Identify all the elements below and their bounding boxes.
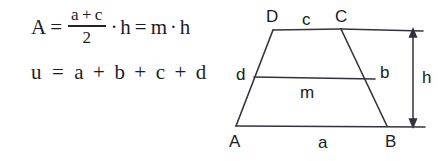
perimeter-term-a: a bbox=[74, 60, 84, 84]
perimeter-term-b: b bbox=[114, 60, 125, 84]
height-label-h: h bbox=[422, 69, 431, 86]
vertex-label-b: B bbox=[385, 133, 396, 150]
area-symbol: A bbox=[31, 17, 46, 38]
perimeter-equals-sign: = bbox=[48, 60, 68, 84]
midline-segment bbox=[254, 77, 375, 79]
perimeter-symbol: u bbox=[31, 60, 42, 84]
height-symbol-1: h bbox=[120, 17, 131, 38]
numerator-plus: + bbox=[79, 5, 95, 24]
perimeter-plus-1: + bbox=[90, 60, 108, 84]
perimeter-term-c: c bbox=[156, 60, 166, 84]
figure-canvas: A = a+c 2 · h = m · h u = a + b + c + bbox=[0, 0, 439, 161]
side-top-base-dc bbox=[273, 29, 341, 30]
multiplication-dot-1: · bbox=[108, 17, 121, 37]
equals-sign-1: = bbox=[46, 17, 66, 38]
perimeter-plus-3: + bbox=[171, 60, 189, 84]
midline-label-m: m bbox=[300, 84, 314, 101]
height-arrow-head-bottom bbox=[410, 119, 417, 127]
vertex-label-a: A bbox=[229, 133, 240, 150]
trapezoid-diagram: D c C d b m A a B h bbox=[215, 0, 439, 161]
height-symbol-2: h bbox=[180, 17, 191, 38]
height-dimension-arrow bbox=[410, 29, 417, 127]
side-bottom-base-ab bbox=[236, 126, 425, 127]
vertex-label-d: D bbox=[266, 8, 278, 25]
equals-sign-2: = bbox=[131, 17, 151, 38]
multiplication-dot-2: · bbox=[167, 17, 180, 37]
average-bases-fraction: a+c 2 bbox=[68, 6, 106, 47]
area-formula: A = a+c 2 · h = m · h bbox=[31, 7, 190, 48]
formula-block: A = a+c 2 · h = m · h u = a + b + c + bbox=[0, 0, 215, 161]
top-extension-line bbox=[341, 29, 423, 31]
vertex-label-c: C bbox=[335, 8, 347, 25]
numerator-term-a: a bbox=[71, 5, 79, 24]
side-label-a-bottom: a bbox=[318, 134, 327, 151]
perimeter-plus-2: + bbox=[131, 60, 149, 84]
perimeter-term-d: d bbox=[196, 60, 207, 84]
midline-symbol: m bbox=[151, 17, 167, 38]
numerator-term-c: c bbox=[95, 5, 103, 24]
fraction-numerator: a+c bbox=[68, 6, 106, 25]
side-label-b-right: b bbox=[380, 64, 389, 81]
perimeter-formula: u = a + b + c + d bbox=[31, 62, 207, 83]
side-label-c-top: c bbox=[302, 11, 311, 28]
side-label-d-left: d bbox=[236, 66, 245, 83]
fraction-denominator: 2 bbox=[83, 27, 92, 48]
